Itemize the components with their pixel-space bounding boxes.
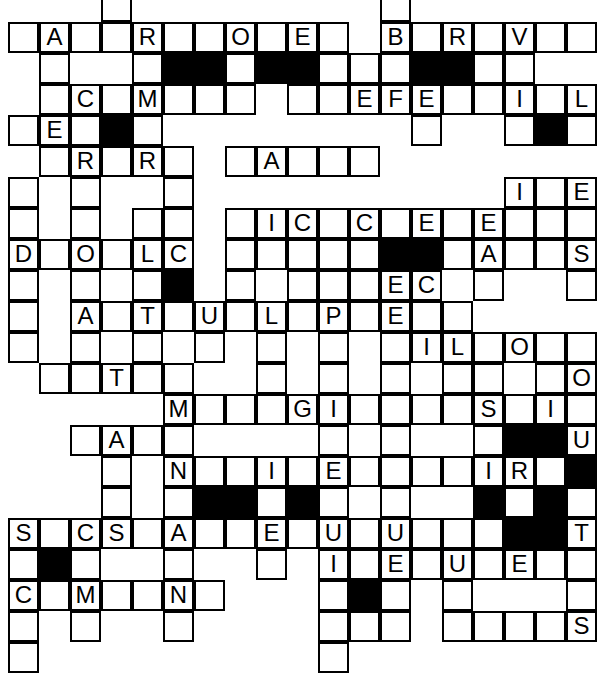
crossword-open-cell[interactable] (194, 22, 225, 53)
crossword-open-cell[interactable] (163, 425, 194, 456)
crossword-open-cell[interactable] (566, 332, 597, 363)
crossword-open-cell[interactable] (101, 0, 132, 22)
crossword-open-cell[interactable] (380, 394, 411, 425)
crossword-letter-cell[interactable]: E (256, 518, 287, 549)
crossword-open-cell[interactable] (473, 363, 504, 394)
crossword-open-cell[interactable] (349, 394, 380, 425)
crossword-open-cell[interactable] (132, 518, 163, 549)
crossword-open-cell[interactable] (473, 53, 504, 84)
crossword-open-cell[interactable] (504, 115, 535, 146)
crossword-open-cell[interactable] (225, 84, 256, 115)
crossword-open-cell[interactable] (566, 115, 597, 146)
crossword-open-cell[interactable] (566, 22, 597, 53)
crossword-open-cell[interactable] (132, 363, 163, 394)
crossword-open-cell[interactable] (566, 270, 597, 301)
crossword-open-cell[interactable] (566, 580, 597, 611)
crossword-open-cell[interactable] (132, 580, 163, 611)
crossword-open-cell[interactable] (566, 208, 597, 239)
crossword-open-cell[interactable] (504, 487, 535, 518)
crossword-letter-cell[interactable]: R (132, 22, 163, 53)
crossword-open-cell[interactable] (349, 611, 380, 642)
crossword-letter-cell[interactable]: G (287, 394, 318, 425)
crossword-letter-cell[interactable]: A (256, 146, 287, 177)
crossword-letter-cell[interactable]: S (8, 518, 39, 549)
crossword-open-cell[interactable] (287, 456, 318, 487)
crossword-open-cell[interactable] (132, 115, 163, 146)
crossword-letter-cell[interactable]: U (194, 301, 225, 332)
crossword-open-cell[interactable] (349, 146, 380, 177)
crossword-open-cell[interactable] (318, 332, 349, 363)
crossword-open-cell[interactable] (287, 270, 318, 301)
crossword-open-cell[interactable] (442, 611, 473, 642)
crossword-open-cell[interactable] (8, 208, 39, 239)
crossword-open-cell[interactable] (535, 611, 566, 642)
crossword-open-cell[interactable] (535, 208, 566, 239)
crossword-open-cell[interactable] (380, 332, 411, 363)
crossword-open-cell[interactable] (380, 487, 411, 518)
crossword-open-cell[interactable] (8, 642, 39, 673)
crossword-letter-cell[interactable]: R (504, 456, 535, 487)
crossword-open-cell[interactable] (349, 53, 380, 84)
crossword-letter-cell[interactable]: O (566, 363, 597, 394)
crossword-open-cell[interactable] (256, 549, 287, 580)
crossword-open-cell[interactable] (225, 53, 256, 84)
crossword-open-cell[interactable] (70, 611, 101, 642)
crossword-open-cell[interactable] (535, 239, 566, 270)
crossword-open-cell[interactable] (70, 208, 101, 239)
crossword-letter-cell[interactable]: A (163, 518, 194, 549)
crossword-open-cell[interactable] (163, 363, 194, 394)
crossword-open-cell[interactable] (256, 332, 287, 363)
crossword-open-cell[interactable] (8, 115, 39, 146)
crossword-open-cell[interactable] (442, 239, 473, 270)
crossword-open-cell[interactable] (8, 301, 39, 332)
crossword-open-cell[interactable] (256, 239, 287, 270)
crossword-open-cell[interactable] (442, 208, 473, 239)
crossword-letter-cell[interactable]: C (8, 580, 39, 611)
crossword-open-cell[interactable] (380, 425, 411, 456)
crossword-open-cell[interactable] (442, 84, 473, 115)
crossword-open-cell[interactable] (318, 146, 349, 177)
crossword-open-cell[interactable] (225, 456, 256, 487)
crossword-letter-cell[interactable]: E (287, 22, 318, 53)
crossword-open-cell[interactable] (535, 549, 566, 580)
crossword-letter-cell[interactable]: C (349, 208, 380, 239)
crossword-open-cell[interactable] (380, 0, 411, 22)
crossword-open-cell[interactable] (70, 115, 101, 146)
crossword-open-cell[interactable] (411, 456, 442, 487)
crossword-open-cell[interactable] (70, 549, 101, 580)
crossword-letter-cell[interactable]: S (101, 518, 132, 549)
crossword-open-cell[interactable] (318, 270, 349, 301)
crossword-letter-cell[interactable]: C (70, 84, 101, 115)
crossword-open-cell[interactable] (504, 53, 535, 84)
crossword-open-cell[interactable] (411, 22, 442, 53)
crossword-open-cell[interactable] (473, 84, 504, 115)
crossword-open-cell[interactable] (318, 580, 349, 611)
crossword-open-cell[interactable] (318, 363, 349, 394)
crossword-open-cell[interactable] (194, 332, 225, 363)
crossword-open-cell[interactable] (132, 332, 163, 363)
crossword-open-cell[interactable] (101, 239, 132, 270)
crossword-open-cell[interactable] (380, 53, 411, 84)
crossword-letter-cell[interactable]: I (504, 84, 535, 115)
crossword-open-cell[interactable] (442, 301, 473, 332)
crossword-letter-cell[interactable]: I (411, 332, 442, 363)
crossword-open-cell[interactable] (442, 363, 473, 394)
crossword-open-cell[interactable] (132, 270, 163, 301)
crossword-open-cell[interactable] (70, 425, 101, 456)
crossword-open-cell[interactable] (287, 239, 318, 270)
crossword-open-cell[interactable] (70, 177, 101, 208)
crossword-open-cell[interactable] (39, 363, 70, 394)
crossword-open-cell[interactable] (349, 518, 380, 549)
crossword-open-cell[interactable] (411, 394, 442, 425)
crossword-open-cell[interactable] (39, 518, 70, 549)
crossword-open-cell[interactable] (132, 208, 163, 239)
crossword-letter-cell[interactable]: E (39, 115, 70, 146)
crossword-open-cell[interactable] (194, 456, 225, 487)
crossword-open-cell[interactable] (473, 332, 504, 363)
crossword-letter-cell[interactable]: A (101, 425, 132, 456)
crossword-letter-cell[interactable]: U (318, 518, 349, 549)
crossword-letter-cell[interactable]: L (442, 332, 473, 363)
crossword-open-cell[interactable] (70, 270, 101, 301)
crossword-open-cell[interactable] (70, 332, 101, 363)
